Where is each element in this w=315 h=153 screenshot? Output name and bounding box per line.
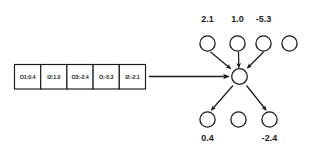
diagram-canvas: O1:0.4 I2:1.0 O3:-2.4 O:-5.3 I2:-2.1 2.1… [0, 0, 315, 153]
top-node-0-label: 2.1 [201, 14, 214, 24]
top-node-0[interactable] [200, 36, 215, 51]
network-diagram: O1:0.4 I2:1.0 O3:-2.4 O:-5.3 I2:-2.1 2.1… [0, 0, 315, 153]
bottom-node-0[interactable] [200, 112, 215, 127]
buffer-cell-1-label: I2:1.0 [47, 74, 60, 80]
bottom-node-row: 0.4 -2.4 [200, 112, 277, 143]
top-node-2[interactable] [256, 36, 271, 51]
bottom-node-2[interactable] [262, 112, 277, 127]
edge-center-to-bottom-2 [247, 86, 267, 111]
top-node-2-label: -5.3 [256, 14, 272, 24]
edge-center-to-bottom-0 [212, 86, 234, 111]
top-node-row: 2.1 1.0 -5.3 [200, 14, 297, 52]
buffer-cell-4-label: I2:-2.1 [125, 74, 140, 80]
memory-buffer: O1:0.4 I2:1.0 O3:-2.4 O:-5.3 I2:-2.1 [15, 65, 146, 90]
buffer-cell-0-label: O1:0.4 [20, 74, 36, 80]
top-node-1[interactable] [230, 36, 245, 51]
bottom-node-1[interactable] [231, 112, 246, 127]
buffer-cell-3-label: O:-5.3 [99, 74, 114, 80]
buffer-cell-2-label: O3:-2.4 [71, 74, 88, 80]
bottom-node-0-label: 0.4 [201, 133, 214, 143]
top-node-3[interactable] [282, 36, 297, 51]
center-node[interactable] [232, 69, 248, 85]
edge-top-0-to-center [211, 52, 231, 69]
edge-top-2-to-center [248, 52, 264, 68]
top-node-1-label: 1.0 [231, 14, 244, 24]
bottom-node-2-label: -2.4 [262, 133, 278, 143]
